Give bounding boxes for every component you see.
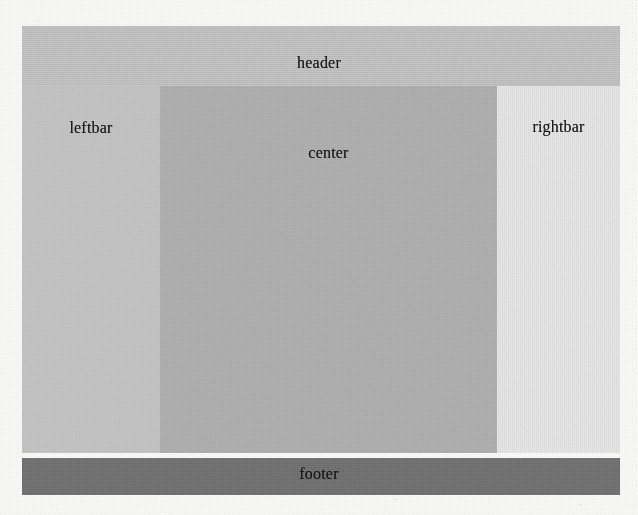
rightbar-region (497, 86, 620, 453)
center-region (160, 86, 497, 453)
rightbar-label: rightbar (497, 119, 620, 135)
footer-label: footer (0, 466, 638, 482)
layout-diagram-canvas: header leftbar center rightbar footer (0, 0, 638, 515)
leftbar-label: leftbar (22, 120, 160, 136)
leftbar-region (22, 86, 160, 453)
header-label: header (0, 55, 638, 71)
center-label: center (160, 145, 497, 161)
